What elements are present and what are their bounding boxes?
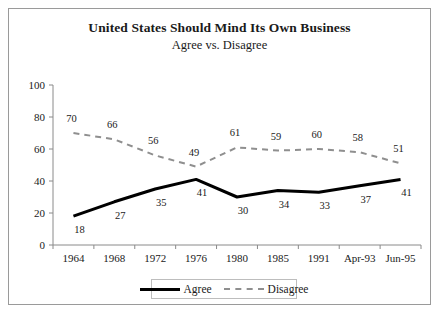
y-axis-tick-label: 0: [40, 239, 46, 251]
legend-line-solid-icon: [140, 288, 180, 291]
data-label-disagree: 56: [148, 135, 159, 146]
data-label-agree: 41: [401, 187, 412, 198]
line-chart-plot: 0204060801001964196819721976198019851991…: [9, 9, 430, 304]
data-label-agree: 18: [74, 224, 85, 235]
y-axis-tick-label: 40: [34, 175, 46, 187]
data-label-agree: 37: [360, 194, 371, 205]
x-axis-category-label: 1972: [144, 252, 166, 264]
x-axis-category-label: 1985: [267, 252, 290, 264]
y-axis-tick-label: 100: [29, 79, 46, 91]
y-axis-tick-label: 20: [34, 207, 46, 219]
data-label-disagree: 58: [352, 132, 363, 143]
x-axis-category-label: 1980: [226, 252, 249, 264]
legend-line-dashed-icon: [224, 288, 264, 290]
data-label-agree: 33: [320, 200, 331, 211]
data-label-agree: 27: [115, 210, 126, 221]
data-label-disagree: 49: [189, 147, 200, 158]
x-axis-category-label: Jun-95: [386, 252, 416, 264]
data-label-disagree: 59: [271, 131, 282, 142]
data-label-agree: 41: [197, 187, 208, 198]
data-label-disagree: 60: [312, 129, 323, 140]
x-axis-category-label: 1991: [308, 252, 330, 264]
data-label-agree: 35: [156, 197, 167, 208]
x-axis-category-label: 1964: [62, 252, 85, 264]
data-label-disagree: 66: [107, 119, 118, 130]
data-label-disagree: 61: [230, 127, 241, 138]
y-axis-tick-label: 60: [34, 143, 46, 155]
legend-label-disagree: Disagree: [268, 283, 309, 295]
data-label-disagree: 70: [66, 113, 77, 124]
data-label-agree: 34: [279, 199, 290, 210]
x-axis-category-label: 1976: [185, 252, 208, 264]
x-axis-category-label: 1968: [103, 252, 126, 264]
legend-item-agree[interactable]: Agree: [140, 283, 212, 295]
legend-label-agree: Agree: [184, 283, 212, 295]
chart-legend: Agree Disagree: [151, 279, 297, 299]
data-label-disagree: 51: [393, 143, 404, 154]
chart-frame: United States Should Mind Its Own Busine…: [8, 8, 431, 305]
data-label-agree: 30: [238, 205, 249, 216]
legend-item-disagree[interactable]: Disagree: [212, 283, 309, 295]
x-axis-category-label: Apr-93: [344, 252, 376, 264]
y-axis-tick-label: 80: [34, 111, 46, 123]
